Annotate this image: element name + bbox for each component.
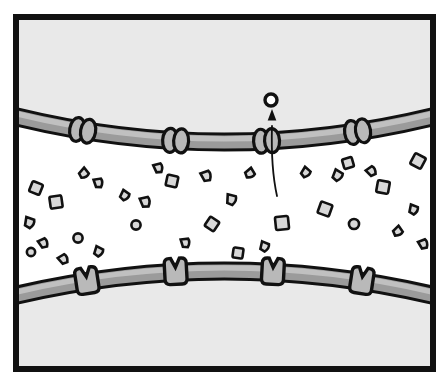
particle-square-21: [376, 180, 390, 194]
particle-drop-7: [94, 178, 104, 189]
particle-drop-body: [94, 178, 104, 189]
particle-square-body: [317, 201, 332, 216]
particle-square-25: [342, 157, 354, 169]
protein-pair-3: [253, 128, 280, 153]
particle-drop-body: [226, 194, 236, 205]
particle-square-body: [165, 174, 178, 187]
particle-drop-28: [181, 238, 191, 248]
figure-root: [0, 0, 448, 386]
particle-square-body: [49, 195, 63, 209]
membrane-transport-diagram: [0, 0, 448, 386]
particle-drop-body: [181, 238, 191, 248]
protein-pair-2: [162, 128, 189, 153]
region-upper-cell-interior: [0, 0, 448, 136]
particle-circle-body: [349, 219, 359, 229]
particle-square-18: [317, 201, 332, 216]
transported-molecule: [265, 94, 277, 106]
protein-pair-2-lobe-2: [173, 129, 189, 154]
receptor-4: [349, 266, 375, 295]
particle-square-body: [29, 181, 43, 195]
particle-circle-19: [349, 219, 359, 229]
particle-square-11: [165, 174, 178, 187]
particle-circle-10: [131, 220, 140, 229]
particle-square-2: [49, 195, 63, 209]
particle-circle-body: [131, 220, 140, 229]
particle-square-body: [275, 216, 289, 230]
protein-pair-1: [68, 116, 98, 144]
particle-circle-body: [73, 233, 82, 242]
particle-square-body: [232, 247, 243, 258]
particle-square-body: [342, 157, 354, 169]
particle-circle-5: [73, 233, 82, 242]
particle-circle-body: [27, 248, 35, 256]
receptor-1: [74, 266, 100, 295]
receptor-4-body: [349, 266, 375, 295]
particle-drop-13: [226, 194, 236, 205]
protein-pair-4: [343, 118, 372, 146]
particle-square-15: [275, 216, 289, 230]
particle-circle-31: [27, 248, 35, 256]
receptor-1-body: [74, 266, 100, 295]
panel-contents: [0, 0, 448, 386]
particle-square-body: [376, 180, 390, 194]
particle-square-34: [232, 247, 243, 258]
particle-square-1: [29, 181, 43, 195]
